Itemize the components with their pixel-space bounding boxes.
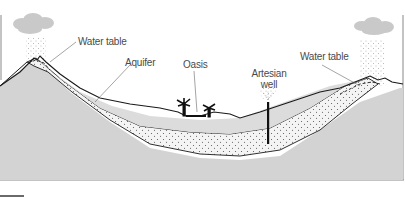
leader-aquifer [95, 65, 130, 102]
footer-bar [0, 195, 24, 197]
cloud-left-icon [13, 13, 54, 34]
cloud-right-icon [354, 17, 394, 35]
label-artesian-well: Artesian well [251, 68, 287, 90]
label-artesian-line2: well [251, 79, 287, 90]
label-artesian-line1: Artesian [251, 68, 287, 79]
aquifer-diagram [0, 0, 405, 199]
leader-oasis [194, 71, 197, 112]
label-water-table-right: Water table [300, 51, 349, 62]
palm-tree-icon [177, 98, 190, 116]
leader-water-table-left [50, 42, 76, 62]
label-oasis: Oasis [183, 59, 208, 70]
leader-water-table-right [322, 65, 360, 86]
label-water-table-left: Water table [78, 36, 127, 47]
label-aquifer: Aquifer [125, 57, 155, 68]
